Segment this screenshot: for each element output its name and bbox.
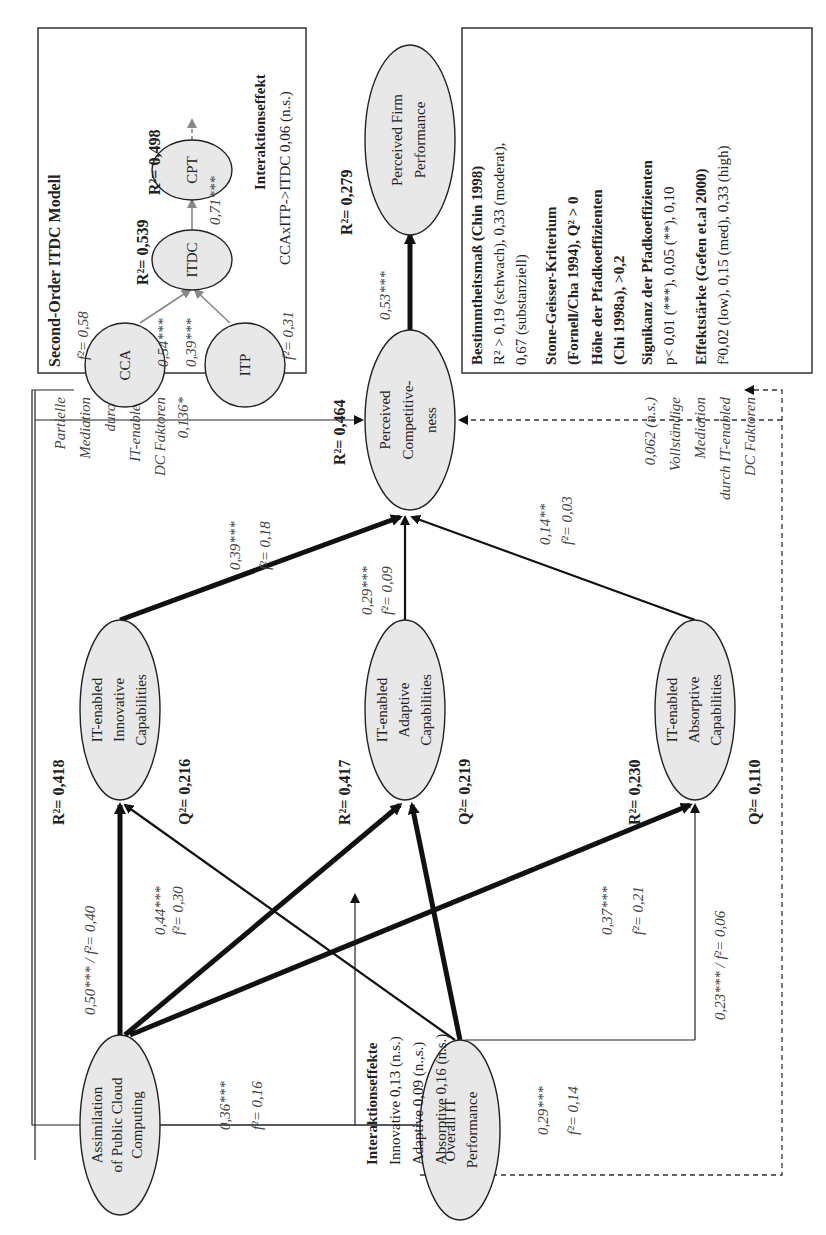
coef-it-innovative: 0,29*** bbox=[535, 1086, 551, 1135]
svg-text:Signikanz der Pfadkoeffiziente: Signikanz der Pfadkoeffizienten bbox=[639, 160, 655, 365]
node-label: Capabilities bbox=[418, 674, 434, 746]
partial-mediation-connector bbox=[32, 390, 80, 1125]
coef-adaptive-comp-f2: f²= 0,09 bbox=[379, 566, 395, 615]
svg-text:Interaktionseffekt: Interaktionseffekt bbox=[252, 74, 268, 190]
svg-text:Mediation: Mediation bbox=[692, 397, 708, 460]
node-cca: CCA bbox=[85, 323, 165, 407]
adaptive-q2: Q²= 0,219 bbox=[456, 759, 473, 825]
svg-text:0,71***: 0,71*** bbox=[207, 176, 223, 225]
svg-text:Stone-Geisser-Kriterium: Stone-Geisser-Kriterium bbox=[543, 206, 559, 365]
node-absorptive[interactable]: IT-enabled Absorptive Capabilities bbox=[655, 620, 735, 800]
svg-text:f²= 0,31: f²= 0,31 bbox=[280, 311, 296, 360]
node-label: IT-enabled bbox=[89, 677, 105, 742]
node-label: Adaptive bbox=[396, 682, 412, 737]
coef-absorptive-comp: 0,14** bbox=[537, 503, 553, 545]
svg-text:CCA: CCA bbox=[117, 349, 133, 380]
svg-text:Mediation: Mediation bbox=[77, 397, 93, 460]
svg-text:0,67 (substanziell): 0,67 (substanziell) bbox=[513, 254, 530, 365]
svg-text:Absorptive 0,16 (n.s.): Absorptive 0,16 (n.s.) bbox=[433, 1034, 450, 1165]
node-label: IT-enabled bbox=[664, 677, 680, 742]
node-competitiveness[interactable]: Perceived Competitive- ness bbox=[365, 330, 455, 510]
path-it-adaptive bbox=[412, 805, 460, 1040]
coef-adaptive-comp: 0,29*** bbox=[359, 566, 375, 615]
coef-innovative-comp: 0,39*** bbox=[227, 521, 243, 570]
node-innovative[interactable]: IT-enabled Innovative Capabilities bbox=[80, 620, 160, 800]
node-label: of Public Cloud bbox=[109, 1077, 125, 1173]
svg-text:f²0,02 (low), 0,15 (med), 0,33: f²0,02 (low), 0,15 (med), 0,33 (high) bbox=[715, 146, 732, 365]
node-assimilation[interactable]: Assimilation of Public Cloud Computing bbox=[80, 1035, 160, 1215]
coef-it-adaptive-f2: f²= 0,21 bbox=[630, 886, 646, 935]
path-absorptive-comp bbox=[412, 517, 695, 620]
coef-it-innovative-f2: f²= 0,14 bbox=[565, 1086, 581, 1135]
partial-mediation-note: Partielle Mediation durch IT-enabled DC … bbox=[52, 397, 191, 478]
svg-text:0,54***: 0,54*** bbox=[155, 318, 171, 367]
node-label: Performance bbox=[464, 1091, 480, 1168]
innovative-r2: R²= 0,418 bbox=[50, 760, 67, 825]
node-label: IT-enabled bbox=[374, 677, 390, 742]
node-overall-it[interactable]: Overall IT Performance bbox=[420, 1040, 500, 1220]
svg-text:Interaktionseffekte: Interaktionseffekte bbox=[364, 1042, 380, 1165]
svg-text:Effektstärke (Gefen et.al 2000: Effektstärke (Gefen et.al 2000) bbox=[693, 168, 710, 365]
interaction-effects-note: Interaktionseffekte Innovative 0,13 (n.s… bbox=[364, 1034, 450, 1165]
svg-text:Innovative 0,13 (n.s.): Innovative 0,13 (n.s.) bbox=[387, 1036, 404, 1165]
svg-text:0,136*: 0,136* bbox=[175, 397, 191, 439]
svg-text:R²= 0,539: R²= 0,539 bbox=[134, 220, 151, 285]
node-itp: ITP bbox=[205, 323, 285, 407]
svg-text:DC Faktoren: DC Faktoren bbox=[152, 397, 168, 477]
absorptive-q2: Q²= 0,110 bbox=[746, 760, 763, 825]
svg-text:CCAxITP->ITDC 0,06 (n.s.): CCAxITP->ITDC 0,06 (n.s.) bbox=[277, 91, 294, 265]
node-firm-performance[interactable]: Perceived Firm Performance bbox=[365, 45, 455, 235]
node-label: Performance bbox=[412, 101, 428, 178]
node-label: Perceived Firm bbox=[389, 94, 405, 186]
firm-r2: R²= 0,279 bbox=[338, 170, 355, 235]
coef-it-adaptive: 0,37*** bbox=[599, 886, 615, 935]
second-order-model-box: Second-Order ITDC Modell CCA ITP ITDC CP… bbox=[38, 28, 306, 407]
node-label: Absorptive bbox=[686, 676, 702, 743]
coef-acc-absorptive: 0,36*** bbox=[217, 1081, 233, 1130]
coef-it-absorptive: 0,23*** / f²= 0,06 bbox=[712, 910, 728, 1020]
full-mediation-note: 0,062 (n.s.) Vollständige Mediation durc… bbox=[642, 397, 758, 500]
svg-text:DC Faktoren: DC Faktoren bbox=[742, 397, 758, 477]
svg-text:p< 0,01 (***), 0,05 (**), 0,10: p< 0,01 (***), 0,05 (**), 0,10 bbox=[661, 187, 678, 365]
svg-text:R² > 0,19 (schwach), 0,33 (mod: R² > 0,19 (schwach), 0,33 (moderat), bbox=[491, 143, 508, 365]
svg-text:ITDC: ITDC bbox=[184, 243, 200, 278]
node-label: Computing bbox=[129, 1091, 145, 1159]
svg-text:Höhe der Pfadkoeffizienten: Höhe der Pfadkoeffizienten bbox=[589, 189, 605, 365]
svg-text:(Fornell/Cha 1994), Q² > 0: (Fornell/Cha 1994), Q² > 0 bbox=[565, 197, 582, 365]
svg-text:Vollständige: Vollständige bbox=[667, 397, 683, 472]
node-label: Competitive- bbox=[400, 380, 416, 459]
svg-text:R²= 0,498: R²= 0,498 bbox=[146, 130, 163, 195]
svg-text:(Chi 1998a), >0,2: (Chi 1998a), >0,2 bbox=[611, 256, 628, 365]
node-label: Capabilities bbox=[708, 674, 724, 746]
coef-comp-firm: 0,53*** bbox=[377, 271, 393, 320]
svg-text:CPT: CPT bbox=[184, 156, 200, 184]
svg-text:durch IT-enabled: durch IT-enabled bbox=[717, 397, 733, 500]
svg-text:Bestimmtheitsmaß (Chin 1998): Bestimmtheitsmaß (Chin 1998) bbox=[469, 166, 486, 365]
node-itdc: ITDC bbox=[152, 230, 232, 290]
node-adaptive[interactable]: IT-enabled Adaptive Capabilities bbox=[365, 620, 445, 800]
absorptive-r2: R²= 0,230 bbox=[626, 760, 643, 825]
node-label: Assimilation bbox=[89, 1086, 105, 1163]
coef-absorptive-comp-f2: f²= 0,03 bbox=[559, 496, 575, 545]
svg-text:0,39***: 0,39*** bbox=[183, 318, 199, 367]
coef-acc-innovative: 0,50*** / f²= 0,40 bbox=[82, 905, 98, 1015]
coef-acc-adaptive-f2: f²= 0,30 bbox=[170, 886, 186, 935]
node-label: Capabilities bbox=[133, 674, 149, 746]
svg-text:Partielle: Partielle bbox=[52, 397, 68, 451]
svg-text:ITP: ITP bbox=[237, 354, 253, 377]
node-label: ness bbox=[423, 407, 439, 433]
node-label: Innovative bbox=[111, 678, 127, 742]
legend-box: Bestimmtheitsmaß (Chin 1998) R² > 0,19 (… bbox=[462, 28, 812, 373]
diagram-canvas: Assimilation of Public Cloud Computing O… bbox=[0, 0, 826, 1235]
coef-innovative-comp-f2: f²= 0,18 bbox=[257, 521, 273, 570]
second-order-title: Second-Order ITDC Modell bbox=[46, 174, 63, 367]
svg-text:0,062 (n.s.): 0,062 (n.s.) bbox=[642, 397, 659, 465]
adaptive-r2: R²= 0,417 bbox=[336, 760, 353, 825]
coef-acc-adaptive: 0,44*** bbox=[152, 886, 168, 935]
svg-text:Adaptive 0,09 (n.,s.): Adaptive 0,09 (n.,s.) bbox=[410, 1042, 427, 1165]
node-label: Perceived bbox=[377, 390, 393, 450]
competitiveness-r2: R²= 0,464 bbox=[331, 400, 348, 465]
innovative-q2: Q²= 0,216 bbox=[176, 759, 193, 825]
coef-acc-absorptive-f2: f²= 0,16 bbox=[249, 1081, 265, 1130]
svg-text:f²= 0,58: f²= 0,58 bbox=[75, 311, 91, 360]
